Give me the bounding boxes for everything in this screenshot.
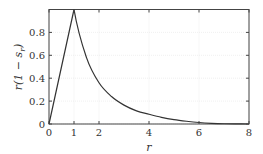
- svg-text:0: 0: [46, 127, 52, 138]
- svg-text:0.4: 0.4: [29, 73, 45, 84]
- svg-text:6: 6: [196, 127, 202, 138]
- line-chart: 012468 00.20.40.60.8 r r(1 − sr): [0, 0, 263, 154]
- svg-text:2: 2: [96, 127, 102, 138]
- svg-text:r(1 − sr): r(1 − sr): [12, 44, 27, 91]
- y-axis-label: r(1 − sr): [12, 44, 27, 91]
- svg-text:0.2: 0.2: [29, 96, 45, 107]
- svg-text:4: 4: [146, 127, 152, 138]
- x-axis-label: r: [146, 141, 152, 154]
- data-line: [49, 10, 249, 125]
- grid-lines: [49, 10, 249, 125]
- svg-text:0.6: 0.6: [29, 50, 45, 61]
- plot-frame: [49, 10, 249, 125]
- svg-text:1: 1: [71, 127, 77, 138]
- svg-text:8: 8: [246, 127, 252, 138]
- svg-text:0.8: 0.8: [29, 27, 45, 38]
- svg-text:0: 0: [39, 119, 45, 130]
